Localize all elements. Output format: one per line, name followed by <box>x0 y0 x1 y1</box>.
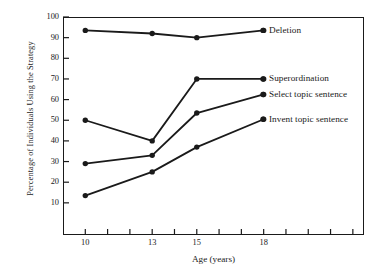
y-tick-label: 80 <box>33 54 59 62</box>
series-label-select-topic-sentence: Select topic sentence <box>269 90 347 99</box>
series-label-leaders <box>260 28 265 122</box>
data-point-marker <box>83 118 88 123</box>
series-label-marker <box>260 28 265 33</box>
series-line <box>85 119 263 195</box>
x-tick-label: 15 <box>182 239 212 247</box>
series-line <box>85 30 263 37</box>
x-axis-ticks <box>85 229 353 235</box>
data-point-marker <box>149 31 154 36</box>
series-label-marker <box>260 92 265 97</box>
x-tick-label: 18 <box>249 239 279 247</box>
series-lines <box>85 30 263 195</box>
y-tick-label: 50 <box>33 116 59 124</box>
x-tick-label: 13 <box>137 239 167 247</box>
series-markers <box>83 28 267 199</box>
series-line <box>85 79 263 141</box>
y-tick-label: 30 <box>33 158 59 166</box>
y-tick-label: 70 <box>33 75 59 83</box>
chart-figure: 100908070605040302010 10131518 Percentag… <box>0 0 383 276</box>
y-tick-label: 60 <box>33 96 59 104</box>
series-label-superordination: Superordination <box>269 74 329 83</box>
series-label-invent-topic-sentence: Invent topic sentence <box>269 115 348 124</box>
series-label-deletion: Deletion <box>269 26 301 35</box>
data-point-marker <box>194 110 199 115</box>
y-tick-label: 100 <box>33 13 59 21</box>
data-point-marker <box>83 193 88 198</box>
x-axis-title: Age (years) <box>63 254 364 264</box>
data-point-marker <box>194 144 199 149</box>
series-label-marker <box>260 117 265 122</box>
data-point-marker <box>149 169 154 174</box>
series-label-marker <box>260 76 265 81</box>
y-tick-label: 10 <box>33 199 59 207</box>
data-point-marker <box>149 138 154 143</box>
data-point-marker <box>149 153 154 158</box>
y-tick-label: 40 <box>33 137 59 145</box>
y-tick-label: 90 <box>33 34 59 42</box>
data-point-marker <box>194 76 199 81</box>
x-tick-label: 10 <box>70 239 100 247</box>
data-point-marker <box>194 35 199 40</box>
y-tick-label: 20 <box>33 178 59 186</box>
data-point-marker <box>83 28 88 33</box>
y-axis-title: Percentage of Individuals Using the Stra… <box>26 14 35 224</box>
y-axis-ticks <box>63 17 69 203</box>
data-point-marker <box>83 161 88 166</box>
